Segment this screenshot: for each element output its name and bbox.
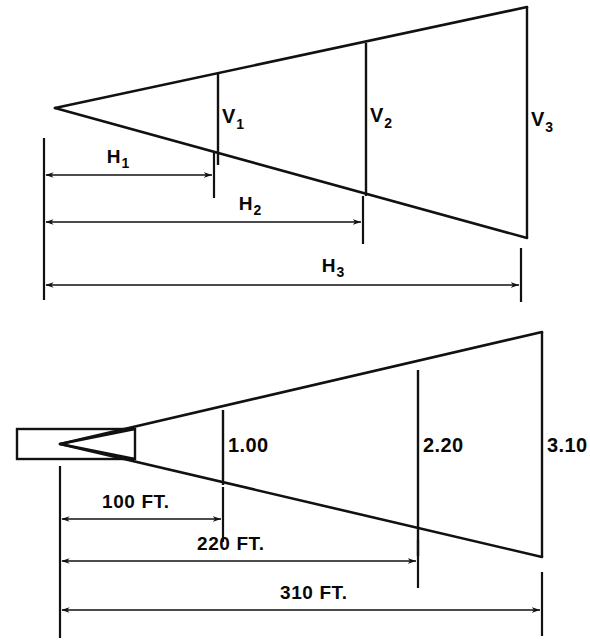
label-v1-subscript: 1	[236, 116, 244, 132]
label-h2-subscript: 2	[253, 202, 261, 218]
label-h2-text: H	[239, 193, 253, 214]
label-v3-text: V	[531, 108, 545, 130]
label-h1-subscript: 1	[121, 155, 129, 171]
label-distance-1: 100 FT.	[102, 491, 170, 512]
label-h3-subscript: 3	[336, 264, 344, 280]
label-distance-3: 310 FT.	[280, 582, 348, 603]
label-v2-subscript: 2	[384, 115, 392, 131]
label-v1-text: V	[222, 105, 236, 127]
label-spread-3: 3.10	[547, 434, 588, 456]
figure-root: V1 V2 V3 H1 H2 H3	[0, 0, 590, 644]
label-spread-1: 1.00	[228, 434, 269, 456]
label-spread-2: 2.20	[423, 434, 464, 456]
label-h3-text: H	[322, 255, 336, 276]
label-v3-subscript: 3	[545, 119, 553, 135]
label-distance-2: 220 FT.	[197, 533, 265, 554]
beam-spread-diagram: V1 V2 V3 H1 H2 H3	[0, 0, 590, 644]
label-v2-text: V	[370, 104, 384, 126]
label-h1-text: H	[107, 146, 121, 167]
